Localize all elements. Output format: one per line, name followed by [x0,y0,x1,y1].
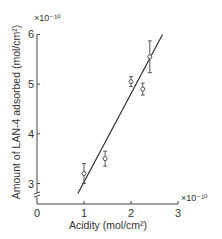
data-point [141,87,145,91]
y-tick-label: 4 [28,128,34,140]
y-tick-label: 6 [28,28,34,40]
x-multiplier: ×10⁻¹⁰ [181,193,208,203]
data-point [103,157,107,161]
axis-break-icon [34,192,40,197]
axes: 34560123 [28,28,181,219]
data-point [129,80,133,84]
y-multiplier: ×10⁻¹⁰ [34,13,61,23]
x-tick-label: 3 [175,207,181,219]
x-tick-label: 2 [128,207,134,219]
x-tick-label: 1 [81,207,87,219]
data-point [82,172,86,176]
y-axis-label: Amount of LAN-4 adsorbed (mol/cm²) [10,25,22,199]
data-point [148,55,152,59]
x-axis-label: Acidity (mol/cm²) [69,219,147,231]
x-tick-label: 0 [34,207,40,219]
chart: 34560123 ×10⁻¹⁰ ×10⁻¹⁰ Acidity (mol/cm²)… [0,0,222,239]
data-points [78,34,163,193]
y-tick-label: 3 [28,178,34,190]
y-tick-label: 5 [28,78,34,90]
